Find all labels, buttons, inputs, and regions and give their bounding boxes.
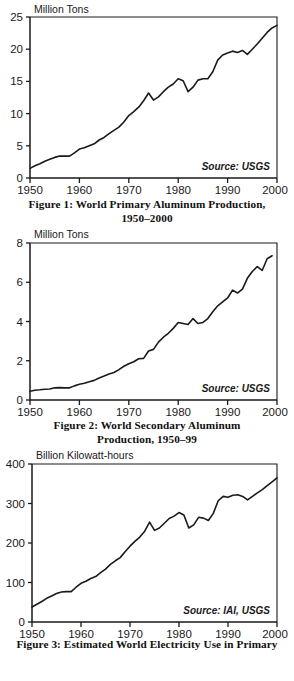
x-tick-1990: 1990 [215,184,241,196]
y-tick-4: 4 [17,316,24,328]
chart-3-y-tick-labels: 400 300 200 100 0 [6,458,25,628]
y-tick-5: 5 [17,140,23,152]
x-tick-1990: 1990 [215,406,241,418]
chart-1-y-tick-labels: 25 20 15 10 5 0 [10,11,23,184]
x-tick-1960: 1960 [67,406,93,418]
chart-1-unit-label: Million Tons [34,3,89,15]
chart-3-axes [32,464,277,622]
x-tick-1970: 1970 [117,628,143,638]
y-tick-2: 2 [17,355,23,367]
figures-page: Million Tons 25 20 15 10 [0,0,294,681]
x-tick-1970: 1970 [116,184,142,196]
x-tick-2000: 2000 [262,184,288,196]
y-tick-25: 25 [10,11,23,23]
chart-2-source-label: Source: USGS [202,383,271,394]
x-tick-2000: 2000 [262,628,288,638]
chart-2-svg: Million Tons 8 6 4 2 0 [0,225,294,419]
y-tick-200: 200 [6,537,25,549]
x-tick-1990: 1990 [215,628,241,638]
figure-2-chart: Million Tons 8 6 4 2 0 [0,225,294,419]
chart-3-series-line [32,478,277,607]
figure-2: Million Tons 8 6 4 2 0 [0,225,294,446]
y-tick-10: 10 [10,108,23,120]
chart-2-series-line [30,256,272,391]
chart-1-axes [30,17,277,178]
chart-2-y-tick-labels: 8 6 4 2 0 [17,237,24,406]
figure-3-caption-line-1: Figure 3: Estimated World Electricity Us… [16,638,277,650]
x-tick-1970: 1970 [116,406,142,418]
chart-1-x-tick-labels: 1950 1960 1970 1980 1990 2000 [17,184,288,196]
y-tick-15: 15 [10,75,23,87]
y-tick-100: 100 [6,577,25,589]
chart-1-series-line [30,25,277,168]
x-tick-1960: 1960 [67,184,93,196]
chart-2-x-tick-labels: 1950 1960 1970 1980 1990 2000 [17,406,288,418]
figure-1-caption-line-1: Figure 1: World Primary Aluminum Product… [29,198,266,210]
x-tick-1980: 1980 [165,184,191,196]
chart-1-svg: Million Tons 25 20 15 10 [0,0,294,198]
y-tick-6: 6 [17,276,23,288]
figure-2-caption-line-1: Figure 2: World Secondary Aluminum [54,419,241,431]
chart-1-source-label: Source: USGS [202,161,271,172]
chart-3-source-label: Source: IAI, USGS [183,605,270,616]
y-tick-0: 0 [19,616,25,628]
figure-3-chart: Billion Kilowatt-hours 400 300 200 1 [0,446,294,638]
figure-1-caption: Figure 1: World Primary Aluminum Product… [0,198,294,225]
x-tick-1950: 1950 [17,406,43,418]
figure-1-caption-line-2: 1950–2000 [6,212,288,226]
x-tick-1950: 1950 [17,184,43,196]
figure-2-caption-line-2: Production, 1950–99 [6,433,288,447]
y-tick-400: 400 [6,458,25,470]
x-tick-1980: 1980 [165,406,191,418]
x-tick-2000: 2000 [262,406,288,418]
chart-3-unit-label: Billion Kilowatt-hours [36,449,133,461]
chart-2-unit-label: Million Tons [34,228,89,240]
figure-1-chart: Million Tons 25 20 15 10 [0,0,294,198]
y-tick-8: 8 [17,237,23,249]
y-tick-0: 0 [17,394,23,406]
figure-2-caption: Figure 2: World Secondary Aluminum Produ… [0,419,294,446]
y-tick-0: 0 [17,172,23,184]
y-tick-300: 300 [6,498,25,510]
figure-3-caption: Figure 3: Estimated World Electricity Us… [0,638,294,651]
x-tick-1950: 1950 [19,628,45,638]
figure-1: Million Tons 25 20 15 10 [0,0,294,225]
x-tick-1980: 1980 [166,628,192,638]
figure-3: Billion Kilowatt-hours 400 300 200 1 [0,446,294,651]
chart-2-axes [30,243,277,400]
y-tick-20: 20 [10,43,23,55]
chart-3-svg: Billion Kilowatt-hours 400 300 200 1 [0,446,294,638]
x-tick-1960: 1960 [68,628,94,638]
chart-3-x-tick-labels: 1950 1960 1970 1980 1990 2000 [19,628,288,638]
